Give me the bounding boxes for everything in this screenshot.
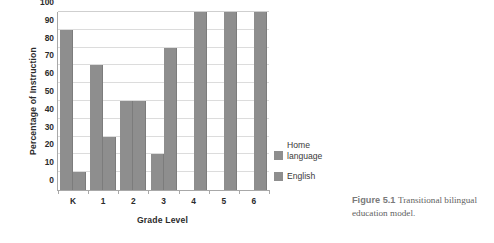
legend-label: language <box>287 151 340 162</box>
bar <box>103 137 116 190</box>
x-tick-mark <box>148 190 149 194</box>
bar <box>254 12 267 190</box>
x-tick-mark <box>269 190 270 194</box>
x-tick-mark <box>239 190 240 194</box>
y-tick-label: 50 <box>45 86 54 96</box>
x-tick-mark <box>58 190 59 194</box>
bar <box>164 48 177 190</box>
figure-caption: Figure 5.1 Transitional bilingual educat… <box>352 194 492 220</box>
legend-swatch <box>274 172 283 181</box>
y-tick-label: 90 <box>45 15 54 25</box>
chart-legend: HomelanguageEnglish <box>274 140 340 191</box>
y-tick-label: 0 <box>49 175 54 185</box>
legend-entry: Homelanguage <box>274 140 340 162</box>
x-tick-label: K <box>70 196 76 206</box>
y-tick-label: 40 <box>45 104 54 114</box>
y-tick-label: 80 <box>45 33 54 43</box>
plot-area: 0102030405060708090100 K123456 <box>57 12 269 191</box>
bar <box>60 30 73 190</box>
x-tick-mark <box>209 190 210 194</box>
bar <box>120 101 133 190</box>
x-axis-title: Grade Level <box>57 215 268 225</box>
x-tick-mark <box>179 190 180 194</box>
x-tick-mark <box>118 190 119 194</box>
figure-page: Percentage of Instruction 01020304050607… <box>0 0 494 243</box>
bar <box>73 172 86 190</box>
y-tick-label: 30 <box>45 122 54 132</box>
x-tick-label: 1 <box>101 196 106 206</box>
legend-label: Home <box>287 140 340 151</box>
bar-series-layer <box>58 12 269 190</box>
chart-figure: Percentage of Instruction 01020304050607… <box>0 0 340 243</box>
y-tick-label: 100 <box>40 0 54 7</box>
legend-swatch <box>274 151 283 160</box>
x-tick-label: 5 <box>221 196 226 206</box>
caption-label: Figure 5.1 <box>352 195 395 205</box>
bar <box>224 12 237 190</box>
bar <box>133 101 146 190</box>
x-tick-label: 6 <box>252 196 257 206</box>
bar <box>151 154 164 190</box>
y-tick-label: 60 <box>45 68 54 78</box>
y-axis-title: Percentage of Instruction <box>28 21 38 181</box>
y-tick-label: 10 <box>45 157 54 167</box>
x-tick-label: 3 <box>161 196 166 206</box>
x-tick-label: 4 <box>191 196 196 206</box>
y-tick-label: 70 <box>45 50 54 60</box>
x-tick-mark <box>88 190 89 194</box>
legend-entry: English <box>274 171 340 182</box>
y-tick-label: 20 <box>45 139 54 149</box>
bar <box>90 65 103 190</box>
legend-label: English <box>287 171 340 182</box>
bar <box>194 12 207 190</box>
x-tick-label: 2 <box>131 196 136 206</box>
